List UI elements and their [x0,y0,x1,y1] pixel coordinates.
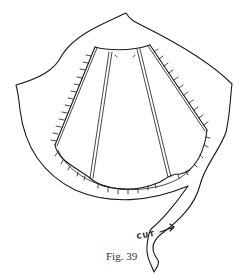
pattern-illustration: CUT [0,0,244,275]
left-panel-seam-2 [93,52,112,178]
figure-caption: Fig. 39 [106,250,137,262]
left-panel-seam [90,52,109,178]
panel-left-edge-inner [57,48,97,146]
figure-canvas: CUT Fig. 39 [0,0,244,275]
panel-left-edge [55,47,95,145]
panel-bottom-edge [55,130,207,189]
cut-label: CUT [136,230,156,241]
left-edge-stitches [51,55,91,141]
top-notch-right [133,55,135,57]
top-notch-left [115,55,117,57]
outer-fabric-outline [16,13,232,272]
cut-arrow-icon [160,224,174,232]
bottom-edge-stitches [55,137,210,194]
right-edge-stitches [154,49,208,125]
panel-top-edge [95,45,150,50]
right-panel-seam-2 [140,49,171,177]
